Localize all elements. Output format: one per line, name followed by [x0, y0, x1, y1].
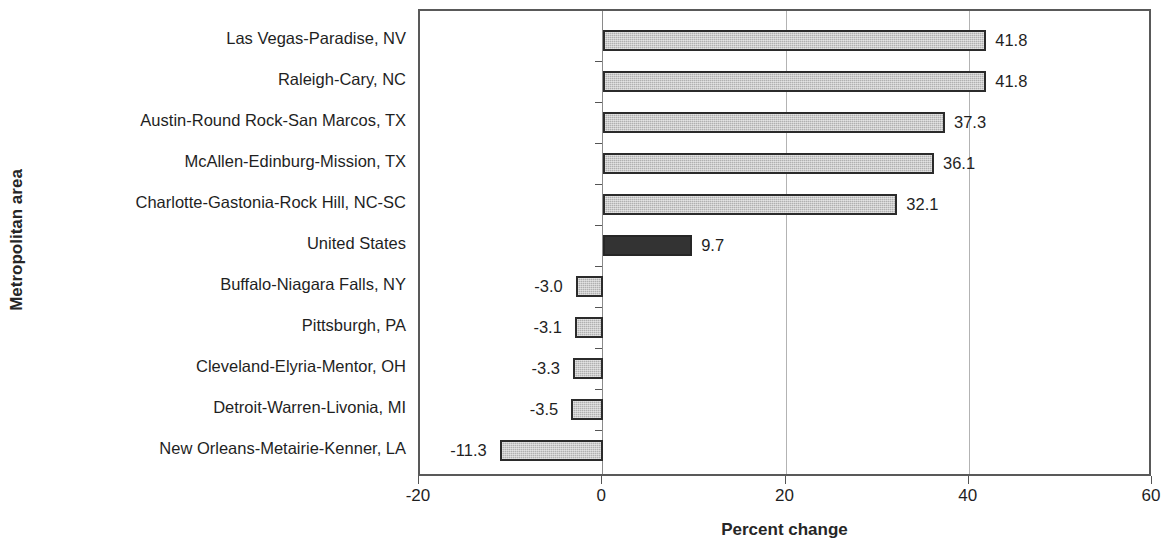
x-axis-tick [601, 476, 602, 484]
bar-row: -3.3 [420, 348, 1149, 389]
bar[interactable] [603, 112, 945, 133]
category-label: Raleigh-Cary, NC [278, 59, 406, 100]
bar-row: -3.1 [420, 307, 1149, 348]
category-label: Buffalo-Niagara Falls, NY [220, 264, 406, 305]
x-axis-tick-label: 40 [958, 486, 977, 506]
bar-row: -3.0 [420, 266, 1149, 307]
x-axis-tick [1151, 476, 1152, 484]
x-axis-ticks [418, 476, 1151, 486]
category-label: Detroit-Warren-Livonia, MI [213, 387, 406, 428]
bar-row: 41.8 [420, 61, 1149, 102]
bar[interactable] [603, 30, 986, 51]
y-axis-title: Metropolitan area [0, 0, 34, 480]
bar[interactable] [576, 276, 603, 297]
category-label: McAllen-Edinburg-Mission, TX [184, 141, 406, 182]
bar[interactable] [603, 71, 986, 92]
x-axis-tick-label: -20 [406, 486, 431, 506]
category-label: Pittsburgh, PA [302, 305, 406, 346]
bar[interactable] [603, 194, 897, 215]
bar-value-label: 9.7 [701, 235, 724, 256]
bar[interactable] [603, 153, 934, 174]
bar-value-label: -11.3 [450, 440, 486, 461]
plot-area: 41.841.837.336.132.19.7-3.0-3.1-3.3-3.5-… [418, 9, 1151, 476]
bar-chart: Metropolitan area Las Vegas-Paradise, NV… [0, 0, 1171, 558]
x-axis-tick-label: 20 [775, 486, 794, 506]
bar[interactable] [575, 317, 603, 338]
category-label: United States [307, 223, 406, 264]
category-label-column: Las Vegas-Paradise, NVRaleigh-Cary, NCAu… [34, 9, 414, 476]
bar-value-label: -3.5 [530, 399, 558, 420]
x-axis-tick [418, 476, 419, 484]
bar-row: 32.1 [420, 184, 1149, 225]
bar[interactable] [571, 399, 603, 420]
bar-value-label: -3.0 [534, 276, 562, 297]
y-axis-title-text: Metropolitan area [7, 169, 27, 311]
bar-value-label: 37.3 [954, 112, 986, 133]
x-axis-tick-label: 60 [1142, 486, 1161, 506]
bar-value-label: 41.8 [995, 71, 1027, 92]
bar-row: 37.3 [420, 102, 1149, 143]
category-label: Cleveland-Elyria-Mentor, OH [196, 346, 406, 387]
category-label: New Orleans-Metairie-Kenner, LA [159, 428, 406, 469]
category-label: Las Vegas-Paradise, NV [226, 18, 406, 59]
bar-value-label: 32.1 [906, 194, 938, 215]
bar-row: 9.7 [420, 225, 1149, 266]
x-axis-title: Percent change [418, 520, 1151, 540]
bar-row: 41.8 [420, 20, 1149, 61]
bar-row: -11.3 [420, 430, 1149, 471]
x-axis-tick [785, 476, 786, 484]
bar[interactable] [573, 358, 603, 379]
x-axis-tick-label: 0 [597, 486, 606, 506]
bar-value-label: 41.8 [995, 30, 1027, 51]
category-label: Austin-Round Rock-San Marcos, TX [140, 100, 406, 141]
bar-row: -3.5 [420, 389, 1149, 430]
bar[interactable] [603, 235, 692, 256]
x-axis-tick [968, 476, 969, 484]
category-label: Charlotte-Gastonia-Rock Hill, NC-SC [136, 182, 407, 223]
bar-value-label: -3.1 [533, 317, 561, 338]
bar-value-label: -3.3 [532, 358, 560, 379]
x-axis-tick-labels: -200204060 [418, 486, 1151, 512]
bar[interactable] [500, 440, 604, 461]
bar-row: 36.1 [420, 143, 1149, 184]
bar-value-label: 36.1 [943, 153, 975, 174]
